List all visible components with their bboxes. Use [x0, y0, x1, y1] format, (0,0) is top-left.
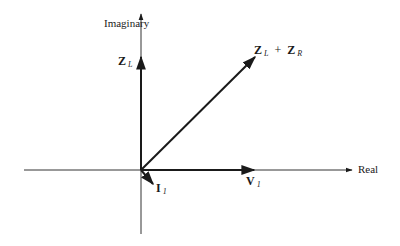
i1-vector: [141, 170, 153, 184]
phasor-diagram: [0, 0, 400, 246]
zl-plus-zr-vector: [141, 57, 255, 170]
imaginary-axis-label: Imaginary: [104, 17, 149, 29]
v1-label: V1: [246, 174, 261, 189]
zl-label: ZL: [118, 54, 132, 69]
i1-label: I1: [156, 181, 167, 196]
zl-plus-zr-label: ZL+ZR: [254, 43, 302, 58]
real-axis-label: Real: [358, 163, 378, 175]
